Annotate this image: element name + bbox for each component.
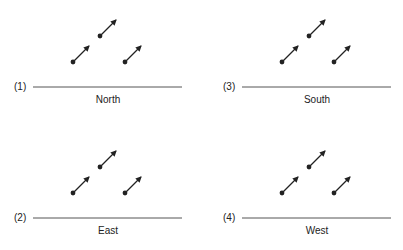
panel-label-east: East: [98, 225, 118, 237]
panel-3-graphic: [242, 20, 391, 87]
dot-icon: [280, 60, 285, 65]
arrow-icon: [334, 46, 350, 62]
arrow-icon: [73, 177, 89, 193]
dot-icon: [307, 165, 312, 170]
panel-number-2: (2): [14, 212, 26, 224]
panel-label-west: West: [306, 225, 329, 237]
dot-icon: [98, 34, 103, 39]
dot-icon: [332, 191, 337, 196]
dot-icon: [71, 191, 76, 196]
arrow-icon: [73, 46, 89, 62]
dot-icon: [332, 60, 337, 65]
dot-icon: [307, 34, 312, 39]
dot-icon: [280, 191, 285, 196]
arrow-icon: [100, 151, 116, 167]
dot-icon: [123, 60, 128, 65]
arrow-icon: [309, 20, 325, 36]
panel-4-graphic: [242, 151, 391, 218]
dot-icon: [123, 191, 128, 196]
arrow-icon: [100, 20, 116, 36]
panel-1-graphic: [33, 20, 182, 87]
arrow-icon: [125, 177, 141, 193]
diagram-canvas: [0, 0, 403, 250]
arrow-icon: [309, 151, 325, 167]
dot-icon: [98, 165, 103, 170]
panel-number-4: (4): [223, 212, 235, 224]
panel-label-south: South: [304, 94, 330, 106]
panel-2-graphic: [33, 151, 182, 218]
panel-label-north: North: [96, 94, 120, 106]
panel-number-3: (3): [223, 81, 235, 93]
panel-number-1: (1): [14, 81, 26, 93]
arrow-icon: [282, 177, 298, 193]
arrow-icon: [334, 177, 350, 193]
arrow-icon: [282, 46, 298, 62]
arrow-icon: [125, 46, 141, 62]
dot-icon: [71, 60, 76, 65]
